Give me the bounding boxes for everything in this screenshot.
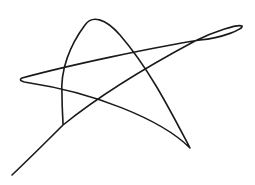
star-sketch (0, 0, 255, 185)
star-stroke (12, 19, 242, 175)
sketch-canvas (0, 0, 255, 185)
